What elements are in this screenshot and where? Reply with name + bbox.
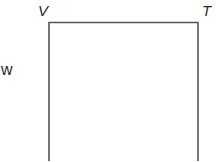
rectangle-diagram: V T w: [0, 0, 222, 161]
rectangle-outline: [49, 23, 198, 162]
side-label-left: w: [1, 62, 13, 78]
vertex-label-top-right: T: [202, 3, 211, 18]
rectangle-shape: [0, 0, 222, 161]
vertex-label-top-left: V: [38, 3, 48, 18]
